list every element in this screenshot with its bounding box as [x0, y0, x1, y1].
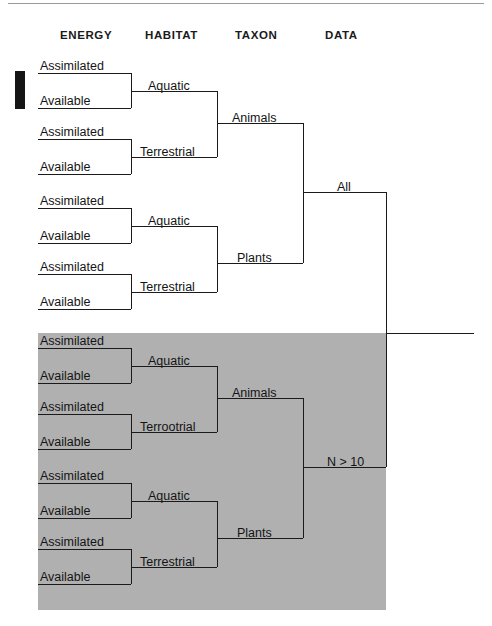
- root-connector: [386, 192, 387, 467]
- column-header-data: DATA: [325, 29, 358, 41]
- column-header-taxon: TAXON: [235, 29, 277, 41]
- leaf-label-available-2: Available: [40, 161, 91, 174]
- node-label-terrestrial-3: Terrootrial: [140, 421, 196, 434]
- highlight-marker-bar: [15, 71, 25, 109]
- leaf-label-available-1: Available: [40, 95, 91, 108]
- node-label-animals-top: Animals: [232, 112, 276, 125]
- leaf-label-assimilated-3: Assimilated: [40, 195, 104, 208]
- leaf-label-available-5: Available: [40, 370, 91, 383]
- top-divider-rule: [8, 3, 484, 4]
- leaf-label-available-4: Available: [40, 296, 91, 309]
- node-label-data-n-gt-10: N > 10: [327, 456, 364, 469]
- leaf-label-assimilated-7: Assimilated: [40, 470, 104, 483]
- leaf-label-assimilated-5: Assimilated: [40, 335, 104, 348]
- leaf-line-5: [38, 208, 131, 209]
- habitat-connector-2: [217, 226, 218, 292]
- leaf-label-available-8: Available: [40, 571, 91, 584]
- column-header-energy: ENERGY: [60, 29, 112, 41]
- node-label-animals-bottom: Animals: [232, 387, 276, 400]
- leaf-line-4: [38, 174, 131, 175]
- leaf-label-assimilated-6: Assimilated: [40, 401, 104, 414]
- tree-diagram-figure: ENERGY HABITAT TAXON DATA: [0, 0, 492, 626]
- leaf-line-7: [38, 274, 131, 275]
- taxon-connector-bottom: [303, 398, 304, 538]
- root-stub-line: [386, 333, 474, 334]
- habitat-connector-3: [217, 366, 218, 432]
- leaf-label-available-7: Available: [40, 505, 91, 518]
- leaf-line-2: [38, 108, 131, 109]
- leaf-label-assimilated-1: Assimilated: [40, 60, 104, 73]
- leaf-label-available-3: Available: [40, 230, 91, 243]
- habitat-connector-4: [217, 501, 218, 567]
- leaf-line-9: [38, 348, 131, 349]
- leaf-line-6: [38, 243, 131, 244]
- leaf-line-16: [38, 584, 131, 585]
- leaf-label-assimilated-4: Assimilated: [40, 261, 104, 274]
- node-label-terrestrial-4: Terrestrial: [140, 556, 195, 569]
- taxon-connector-top: [303, 123, 304, 263]
- leaf-label-available-6: Available: [40, 436, 91, 449]
- node-label-aquatic-3: Aquatic: [148, 355, 190, 368]
- column-header-habitat: HABITAT: [145, 29, 198, 41]
- node-label-plants-top: Plants: [237, 252, 272, 265]
- node-label-aquatic-4: Aquatic: [148, 490, 190, 503]
- node-label-plants-bottom: Plants: [237, 527, 272, 540]
- leaf-line-11: [38, 414, 131, 415]
- node-label-data-all: All: [337, 181, 351, 194]
- leaf-line-12: [38, 449, 131, 450]
- leaf-line-1: [38, 73, 131, 74]
- leaf-line-13: [38, 483, 131, 484]
- node-label-aquatic-1: Aquatic: [148, 80, 190, 93]
- leaf-label-assimilated-2: Assimilated: [40, 126, 104, 139]
- habitat-connector-1: [217, 91, 218, 157]
- leaf-line-8: [38, 309, 131, 310]
- node-label-terrestrial-2: Terrestrial: [140, 281, 195, 294]
- leaf-label-assimilated-8: Assimilated: [40, 536, 104, 549]
- leaf-line-3: [38, 139, 131, 140]
- node-label-aquatic-2: Aquatic: [148, 215, 190, 228]
- leaf-line-14: [38, 518, 131, 519]
- leaf-line-15: [38, 549, 131, 550]
- leaf-line-10: [38, 383, 131, 384]
- node-label-terrestrial-1: Terrestrial: [140, 146, 195, 159]
